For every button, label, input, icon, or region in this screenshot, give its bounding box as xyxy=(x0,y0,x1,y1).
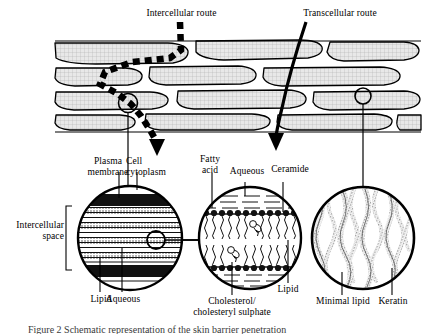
intercellular-route-path xyxy=(100,22,181,156)
stratum-corneum-tissue xyxy=(55,40,421,132)
cholesterol-label: Cholesterol/ cholesteryl sulphate xyxy=(161,296,303,317)
inset-lamellae xyxy=(78,186,199,290)
skin-penetration-figure: Intercellular route Transcellular route … xyxy=(0,0,423,334)
inset-bilayer xyxy=(199,187,301,289)
intercellular-space-label: Intercellular space xyxy=(0,220,64,241)
figure-caption: Figure 2 Schematic representation of the… xyxy=(28,324,408,334)
transcellular-route-label: Transcellular route xyxy=(265,8,415,19)
ceramide-label: Ceramide xyxy=(262,164,318,175)
intercellular-route-label: Intercellular route xyxy=(104,8,259,19)
intercellular-space-bracket xyxy=(66,206,72,270)
cell-cytoplasm-label: Cell cytoplasm xyxy=(126,156,190,177)
corneocyte-cells xyxy=(55,40,421,130)
inset-keratin xyxy=(312,187,414,289)
aqueous-label-left: Aqueous xyxy=(96,294,150,305)
keratin-label: Keratin xyxy=(368,296,418,307)
lipid-label-mid: Lipid xyxy=(268,284,308,295)
